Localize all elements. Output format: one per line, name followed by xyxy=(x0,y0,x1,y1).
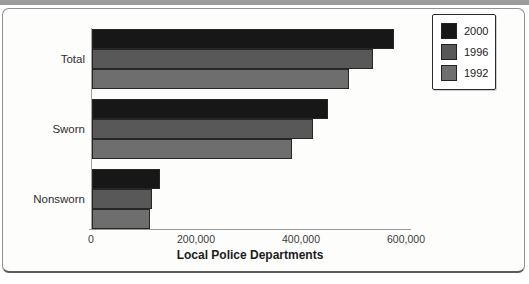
legend-item-2000: 2000 xyxy=(441,23,495,39)
category-label-total: Total xyxy=(3,52,85,66)
legend-swatch-1992 xyxy=(441,65,457,81)
legend-item-1996: 1996 xyxy=(441,44,495,60)
bar-total-1996 xyxy=(92,49,373,69)
legend-item-1992: 1992 xyxy=(441,65,495,81)
bar-nonsworn-1996 xyxy=(92,189,152,209)
figure-local-police-departments: TotalSwornNonsworn 0200,000400,000600,00… xyxy=(0,0,529,284)
legend-label-1996: 1996 xyxy=(464,46,488,58)
legend-label-1992: 1992 xyxy=(464,67,488,79)
x-ticks: 0200,000400,000600,000 xyxy=(91,233,407,247)
x-tick-label: 400,000 xyxy=(282,233,320,246)
bar-sworn-2000 xyxy=(92,99,328,119)
category-label-sworn: Sworn xyxy=(3,122,85,136)
page-top-strip xyxy=(0,0,529,5)
x-axis-line xyxy=(89,229,411,230)
bars-layer xyxy=(92,29,408,229)
x-tick-label: 600,000 xyxy=(387,233,425,246)
category-label-nonsworn: Nonsworn xyxy=(3,192,85,206)
x-axis-title: Local Police Departments xyxy=(89,248,411,262)
bar-sworn-1992 xyxy=(92,139,292,159)
legend: 2000 1996 1992 xyxy=(432,14,496,90)
legend-swatch-2000 xyxy=(441,23,457,39)
bar-nonsworn-1992 xyxy=(92,209,150,229)
legend-swatch-1996 xyxy=(441,44,457,60)
bar-total-1992 xyxy=(92,69,349,89)
legend-label-2000: 2000 xyxy=(464,25,488,37)
chart-panel: TotalSwornNonsworn 0200,000400,000600,00… xyxy=(2,8,525,273)
bar-sworn-1996 xyxy=(92,119,313,139)
category-labels: TotalSwornNonsworn xyxy=(3,29,85,229)
bar-total-2000 xyxy=(92,29,394,49)
x-tick-label: 200,000 xyxy=(177,233,215,246)
x-tick-label: 0 xyxy=(88,233,94,246)
bar-nonsworn-2000 xyxy=(92,169,160,189)
